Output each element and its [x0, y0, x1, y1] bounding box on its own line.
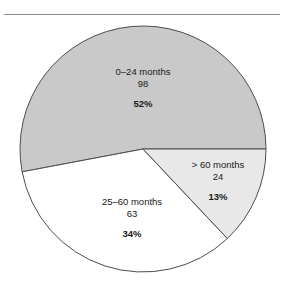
pie-chart-svg: [0, 0, 285, 286]
figure-container: 0–24 months 98 52% 25–60 months 63 34% >…: [0, 0, 285, 286]
pie-chart: 0–24 months 98 52% 25–60 months 63 34% >…: [0, 0, 285, 286]
